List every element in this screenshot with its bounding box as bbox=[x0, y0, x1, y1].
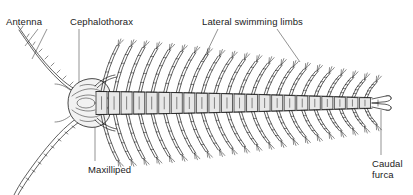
lateral-swimming-limb bbox=[352, 109, 363, 127]
lateral-swimming-limb bbox=[314, 110, 327, 133]
label-cephalothorax: Cephalothorax bbox=[70, 16, 133, 27]
lateral-swimming-limb bbox=[267, 111, 283, 141]
lateral-swimming-limb bbox=[116, 114, 132, 159]
lateral-swimming-limb bbox=[267, 65, 283, 95]
caudal-furca bbox=[372, 96, 391, 111]
lateral-swimming-limb bbox=[116, 46, 132, 91]
lateral-swimming-limb bbox=[304, 71, 318, 96]
lateral-swimming-limb bbox=[279, 111, 294, 139]
crustacean-illustration: .ink { fill: none; stroke: #1a1a1a; stro… bbox=[0, 0, 413, 195]
body-segments-and-limbs bbox=[96, 39, 381, 167]
lateral-swimming-limb bbox=[364, 82, 374, 98]
lateral-swimming-limb bbox=[264, 65, 280, 95]
lateral-swimming-limb bbox=[339, 77, 351, 97]
lateral-swimming-limb bbox=[292, 111, 307, 137]
label-antenna: Antenna bbox=[6, 16, 42, 27]
lateral-swimming-limb bbox=[339, 109, 351, 129]
lateral-swimming-limb bbox=[327, 110, 340, 131]
label-lateral-swimming-limbs: Lateral swimming limbs bbox=[202, 16, 303, 27]
lateral-swimming-limb bbox=[364, 108, 374, 124]
lateral-swimming-limb bbox=[289, 69, 304, 95]
lateral-swimming-limb bbox=[114, 46, 130, 91]
lateral-swimming-limb bbox=[302, 71, 316, 96]
label-caudal-furca-line1: Caudal bbox=[372, 158, 403, 169]
lateral-swimming-limb bbox=[304, 110, 318, 135]
lateral-swimming-limb bbox=[292, 69, 307, 95]
lateral-swimming-limb bbox=[302, 110, 316, 135]
crustacean-anatomy-figure: .ink { fill: none; stroke: #1a1a1a; stro… bbox=[0, 0, 413, 195]
lateral-swimming-limb bbox=[254, 112, 270, 143]
leader-antenna bbox=[25, 29, 38, 46]
lateral-swimming-limb bbox=[327, 75, 340, 96]
cephalothorax bbox=[55, 75, 117, 131]
lateral-swimming-limb bbox=[252, 112, 268, 143]
lateral-swimming-limb bbox=[277, 67, 292, 95]
lateral-swimming-limb bbox=[252, 63, 268, 94]
lateral-swimming-limb bbox=[352, 80, 363, 98]
lateral-swimming-limb bbox=[277, 111, 292, 139]
label-caudal-furca-line2: furca bbox=[372, 169, 394, 180]
lateral-swimming-limb bbox=[264, 111, 280, 141]
leader-lateral-limbs-b bbox=[277, 29, 300, 62]
label-caudal-furca: Caudalfurca bbox=[372, 158, 403, 180]
lateral-swimming-limb bbox=[289, 111, 304, 137]
lateral-swimming-limb bbox=[114, 114, 130, 159]
lateral-swimming-limb bbox=[279, 67, 294, 95]
label-maxilliped: Maxilliped bbox=[88, 164, 131, 175]
lateral-swimming-limb bbox=[254, 63, 270, 94]
lateral-swimming-limb bbox=[314, 73, 327, 96]
